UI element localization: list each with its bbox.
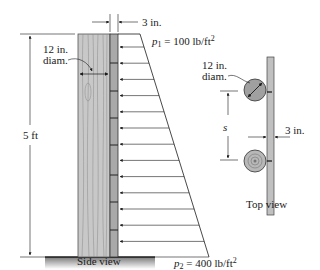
spacing-dimension: s (220, 91, 238, 160)
wooden-post (78, 34, 110, 257)
sheet-board (110, 34, 118, 257)
height-label: 5 ft (23, 129, 38, 141)
bottom-post-section (244, 150, 266, 172)
board-thickness-dimension: 3 in. (92, 14, 162, 32)
top-view-caption: Top view (246, 198, 287, 210)
height-dimension: 5 ft (20, 34, 75, 257)
side-view: 5 ft 12 in. diam. 3 in. p1 = 100 lb/ft2 … (20, 14, 237, 270)
top-view: 12 in. diam. s 3 in. Top view (202, 57, 305, 215)
spacing-label: s (223, 121, 227, 133)
pressure-distribution (118, 34, 209, 257)
side-view-caption-text: Side view (77, 255, 121, 267)
board-thickness-label: 3 in. (142, 16, 162, 28)
post-diameter-label-line2: diam. (43, 54, 68, 66)
p2-label: p2 = 400 lb/ft2 (173, 256, 237, 270)
p1-label: p1 = 100 lb/ft2 (151, 34, 215, 49)
top-view-board (267, 57, 274, 215)
top-board-thickness-label: 3 in. (285, 124, 305, 136)
pressure-arrows (120, 47, 204, 241)
top-board-thickness-dimension: 3 in. (248, 124, 305, 137)
top-diameter-label-line2: diam. (202, 70, 227, 82)
retaining-wall-diagram: 5 ft 12 in. diam. 3 in. p1 = 100 lb/ft2 … (0, 0, 320, 270)
